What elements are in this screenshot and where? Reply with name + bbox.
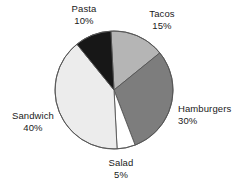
slice-label-pasta: Pasta 10% [56,3,112,26]
slice-label-tacos-value: 15% [134,20,190,32]
slice-label-salad-value: 5% [96,169,146,181]
slice-label-tacos-name: Tacos [134,8,190,20]
slice-label-hamburgers-value: 30% [178,115,249,127]
pie-chart-figure: Pasta 10% Tacos 15% Hamburgers 30% Sandw… [0,0,249,193]
slice-label-tacos: Tacos 15% [134,8,190,31]
slice-label-hamburgers-name: Hamburgers [178,103,249,115]
slice-label-sandwich-name: Sandwich [2,110,64,122]
slice-label-salad: Salad 5% [96,157,146,180]
slice-label-sandwich: Sandwich 40% [2,110,64,133]
slice-label-sandwich-value: 40% [2,122,64,134]
slice-label-pasta-name: Pasta [56,3,112,15]
slice-label-hamburgers: Hamburgers 30% [178,103,249,126]
slice-label-pasta-value: 10% [56,15,112,27]
pie-slice-group [55,31,173,149]
slice-label-salad-name: Salad [96,157,146,169]
